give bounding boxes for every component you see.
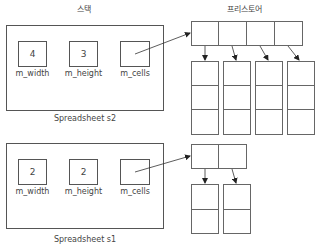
s2-col1-row2 xyxy=(223,109,251,135)
s2-ptr3-arrow xyxy=(288,46,299,60)
spreadsheet-s1-label: Spreadsheet s1 xyxy=(45,235,125,244)
s2-col0-row0 xyxy=(191,61,219,86)
s1-pointer-cell-0 xyxy=(191,144,219,169)
s1-m-width-box: 2 xyxy=(18,159,47,185)
s2-pointer-cell-0 xyxy=(191,21,219,46)
s2-col1-row1 xyxy=(223,85,251,110)
s2-col3-row2 xyxy=(287,109,315,135)
s1-m-cells-label: m_cells xyxy=(110,187,160,196)
s2-m-height-box: 3 xyxy=(69,41,98,67)
s1-m-cells-box xyxy=(120,159,150,185)
s2-m-cells-box xyxy=(120,41,150,67)
s2-col3-row1 xyxy=(287,85,315,110)
s1-pointer-cell-1 xyxy=(218,144,247,169)
s2-col0-row2 xyxy=(191,109,219,135)
s1-col1-row1 xyxy=(223,209,251,234)
stack-header: 스택 xyxy=(77,3,91,14)
s2-pointer-cell-2 xyxy=(246,21,275,46)
s2-col0-row1 xyxy=(191,85,219,110)
s2-m-cells-label: m_cells xyxy=(110,69,160,78)
s1-col0-row1 xyxy=(191,209,219,234)
s2-ptr2-arrow xyxy=(260,46,268,60)
s2-m-width-box: 4 xyxy=(18,41,47,67)
s2-m-width-label: m_width xyxy=(8,69,57,78)
s2-col2-row2 xyxy=(255,109,283,135)
s1-m-width-label: m_width xyxy=(8,187,57,196)
s1-m-height-label: m_height xyxy=(58,187,109,196)
s2-col3-row0 xyxy=(287,61,315,86)
s2-pointer-cell-3 xyxy=(274,21,303,46)
s1-col1-row0 xyxy=(223,184,251,210)
s2-col2-row1 xyxy=(255,85,283,110)
s2-ptr1-arrow xyxy=(232,46,236,60)
s2-col1-row0 xyxy=(223,61,251,86)
s1-col0-row0 xyxy=(191,184,219,210)
spreadsheet-s2-label: Spreadsheet s2 xyxy=(45,114,125,123)
freestore-header: 프리스토어 xyxy=(227,3,262,14)
spreadsheet-s1-frame xyxy=(6,143,164,229)
s1-m-height-box: 2 xyxy=(69,159,98,185)
s2-pointer-cell-1 xyxy=(218,21,247,46)
s1-ptr1-arrow xyxy=(232,169,236,183)
s2-col2-row0 xyxy=(255,61,283,86)
s2-m-height-label: m_height xyxy=(58,69,109,78)
spreadsheet-s2-frame xyxy=(6,25,164,111)
